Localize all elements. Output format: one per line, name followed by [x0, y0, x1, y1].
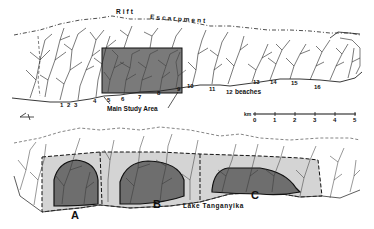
bottom-map: A B C Lake Tanganyika [14, 127, 360, 221]
svg-text:12: 12 [226, 89, 233, 95]
svg-text:3: 3 [313, 117, 317, 123]
svg-text:5: 5 [353, 117, 357, 123]
top-map: Rift Escarpment 1 2 3 4 5 6 7 8 9 10 11 … [12, 8, 362, 120]
svg-text:5: 5 [107, 97, 111, 103]
svg-text:4: 4 [333, 117, 337, 123]
escarpment-label-escarpment: Escarpment [150, 13, 208, 25]
svg-text:14: 14 [270, 79, 277, 85]
top-east-edge [340, 38, 360, 74]
escarpment-label-rift: Rift [116, 8, 135, 15]
zone-c-label: C [251, 189, 259, 201]
zone-b-label: B [153, 198, 161, 210]
main-study-area-label: Main Study Area [107, 105, 158, 113]
svg-text:2: 2 [293, 117, 297, 123]
svg-text:2: 2 [67, 102, 71, 108]
bottom-escarpment-line [14, 127, 360, 143]
svg-text:6: 6 [121, 96, 125, 102]
north-arrow-icon [20, 113, 34, 120]
zone-a [54, 160, 98, 206]
beaches-label: beaches [235, 88, 261, 95]
svg-text:0: 0 [253, 117, 257, 123]
svg-text:11: 11 [209, 86, 216, 92]
zone-b [120, 161, 184, 204]
top-east-ridge [330, 32, 360, 38]
lake-tanganyika-label: Lake Tanganyika [183, 202, 244, 210]
svg-text:1: 1 [273, 117, 277, 123]
scale-unit: km [244, 111, 252, 117]
scale-bar: km 0 1 2 3 4 5 [244, 111, 357, 123]
study-area-map-figure: Rift Escarpment 1 2 3 4 5 6 7 8 9 10 11 … [0, 0, 374, 229]
stream-numbers: 1 2 3 4 5 6 7 8 9 10 11 12 13 14 15 16 [60, 79, 321, 108]
svg-text:3: 3 [74, 102, 78, 108]
svg-text:15: 15 [291, 80, 298, 86]
zone-a-label: A [71, 209, 79, 221]
svg-text:1: 1 [60, 102, 64, 108]
svg-text:16: 16 [314, 84, 321, 90]
svg-text:10: 10 [187, 83, 194, 89]
svg-text:13: 13 [253, 79, 260, 85]
svg-text:7: 7 [138, 94, 142, 100]
svg-text:4: 4 [93, 98, 97, 104]
